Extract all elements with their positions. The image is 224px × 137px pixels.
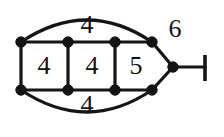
figure-root: 4 4 4 5 4 6 (0, 0, 224, 137)
vertex-bottom-left (16, 85, 26, 95)
label-bottom-face: 4 (81, 90, 94, 119)
label-right-face: 5 (130, 51, 143, 80)
vertex-top-right (147, 37, 157, 47)
vertex-bottom-right (147, 85, 157, 95)
vertex-top-mid2 (110, 37, 120, 47)
label-left-face: 4 (38, 51, 51, 80)
vertex-top-left (16, 37, 26, 47)
label-outer-face: 6 (169, 14, 182, 43)
vertex-top-mid1 (63, 37, 73, 47)
label-top-face: 4 (81, 10, 94, 39)
label-middle-face: 4 (86, 51, 99, 80)
vertex-bottom-mid2 (110, 85, 120, 95)
vertex-bottom-mid1 (63, 85, 73, 95)
vertex-apex (168, 62, 178, 72)
graph-diagram: 4 4 4 5 4 6 (0, 0, 224, 137)
